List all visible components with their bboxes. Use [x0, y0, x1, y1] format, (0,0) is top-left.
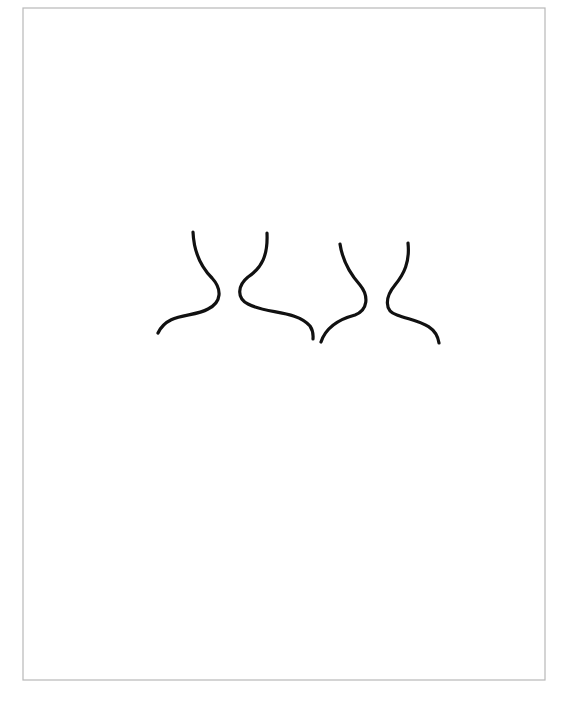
figure-1 — [158, 232, 313, 339]
figure-2-left-neck-contour — [321, 244, 366, 342]
page-frame — [23, 8, 545, 680]
figure-1-left-neck-contour — [158, 232, 219, 333]
figure-2-right-neck-contour — [387, 243, 439, 343]
figure-1-right-neck-contour — [240, 233, 313, 339]
drawing-canvas — [0, 0, 575, 725]
figure-2 — [321, 243, 439, 343]
